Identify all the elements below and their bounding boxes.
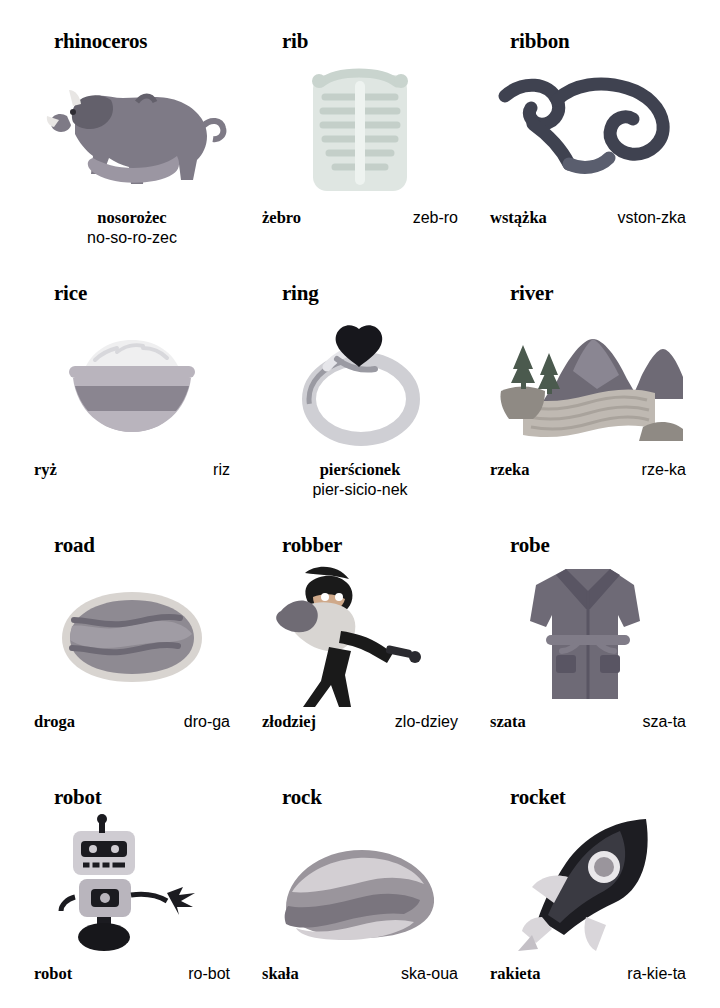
headword-rock: rock [282,786,322,808]
polish-word: robot [34,964,72,984]
translation-ribbon: wstążka vston-zka [488,208,688,230]
rock-illustration [260,812,460,964]
ring-illustration [260,308,460,460]
entry-rocket: rocket rakieta ra-kie-ta [474,786,702,1008]
entry-rice: rice ryż riz [18,282,246,534]
headword-rocket: rocket [510,786,566,808]
road-illustration [32,560,232,712]
rib-cage-illustration [260,56,460,208]
polish-word: wstążka [490,208,547,228]
syllables: pier-sicio-nek [312,481,407,499]
syllables: dro-ga [184,713,230,731]
entry-rock: rock skała ska-oua [246,786,474,1008]
syllables: zlo-dziey [395,713,458,731]
headword-rib: rib [282,30,308,52]
polish-word: pierścionek [320,460,401,480]
translation-robber: złodziej zlo-dziey [260,712,460,734]
robber-illustration [260,560,460,712]
polish-word: nosorożec [97,208,166,228]
headword-road: road [54,534,95,556]
entry-river: river [474,282,702,534]
headword-robe: robe [510,534,550,556]
polish-word: złodziej [262,712,316,732]
polish-word: droga [34,712,75,732]
headword-ring: ring [282,282,319,304]
syllables: ra-kie-ta [627,965,686,983]
rice-bowl-illustration [32,308,232,460]
robot-illustration [32,812,232,964]
syllables: riz [213,461,230,479]
translation-river: rzeka rze-ka [488,460,688,482]
translation-ring: pierścionek pier-sicio-nek [260,460,460,499]
robe-illustration [488,560,688,712]
headword-robot: robot [54,786,102,808]
translation-road: droga dro-ga [32,712,232,734]
headword-ribbon: ribbon [510,30,570,52]
translation-robe: szata sza-ta [488,712,688,734]
ribbon-illustration [488,56,688,208]
dictionary-page: rhinoceros nosorożec no-so-ro-zec [0,0,720,1008]
translation-rhinoceros: nosorożec no-so-ro-zec [32,208,232,247]
entry-rib: rib żebro zeb-ro [246,30,474,282]
polish-word: skała [262,964,299,984]
syllables: vston-zka [618,209,686,227]
translation-rocket: rakieta ra-kie-ta [488,964,688,986]
entry-road: road droga dro-ga [18,534,246,786]
entry-rhinoceros: rhinoceros nosorożec no-so-ro-zec [18,30,246,282]
syllables: ska-oua [401,965,458,983]
translation-robot: robot ro-bot [32,964,232,986]
river-landscape-illustration [488,308,688,460]
syllables: rze-ka [642,461,686,479]
rocket-illustration [488,812,688,964]
syllables: sza-ta [642,713,686,731]
rhinoceros-illustration [32,56,232,208]
entry-robber: robber złodziej zlo-dzie [246,534,474,786]
polish-word: żebro [262,208,301,228]
headword-rhinoceros: rhinoceros [54,30,147,52]
syllables: ro-bot [188,965,230,983]
translation-rib: żebro zeb-ro [260,208,460,230]
polish-word: szata [490,712,526,732]
polish-word: rzeka [490,460,529,480]
headword-rice: rice [54,282,87,304]
translation-rock: skała ska-oua [260,964,460,986]
polish-word: rakieta [490,964,540,984]
entry-robot: robot [18,786,246,1008]
syllables: zeb-ro [413,209,458,227]
headword-river: river [510,282,553,304]
translation-rice: ryż riz [32,460,232,482]
polish-word: ryż [34,460,57,480]
entry-robe: robe szata sza-ta [474,534,702,786]
entry-grid: rhinoceros nosorożec no-so-ro-zec [18,30,702,1008]
syllables: no-so-ro-zec [87,229,177,247]
entry-ribbon: ribbon wstążka vston-zka [474,30,702,282]
headword-robber: robber [282,534,342,556]
entry-ring: ring pierścionek pier-sicio-nek [246,282,474,534]
